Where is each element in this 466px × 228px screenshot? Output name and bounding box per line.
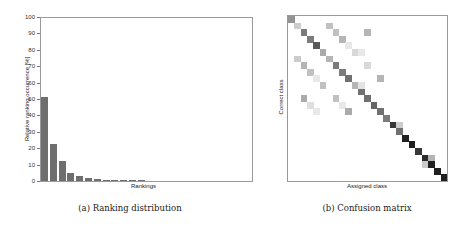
matrix-cell (313, 108, 320, 115)
bar (59, 161, 66, 182)
bar (111, 180, 118, 181)
y-tick (37, 17, 40, 18)
x-axis-label-matrix: Assigned class (347, 183, 387, 189)
matrix-cell (358, 49, 365, 56)
y-tick-label: 90 (21, 30, 35, 36)
y-tick (37, 99, 40, 100)
bar (76, 176, 83, 181)
y-tick (37, 148, 40, 149)
bar (85, 178, 92, 181)
bar (129, 180, 136, 181)
matrix-cell (364, 62, 371, 69)
y-axis-label-matrix: Correct class (278, 72, 284, 122)
y-tick (37, 83, 40, 84)
y-tick (37, 115, 40, 116)
bar (50, 144, 57, 181)
bar (94, 179, 101, 181)
bar (103, 180, 110, 181)
bar (67, 173, 74, 181)
y-tick-label: 0 (21, 178, 35, 184)
x-axis-label: Rankings (131, 183, 156, 189)
y-tick (37, 165, 40, 166)
bar (120, 180, 127, 181)
y-tick (37, 66, 40, 67)
matrix-cell (377, 75, 384, 82)
y-tick-label: 10 (21, 162, 35, 168)
matrix-cell (320, 82, 327, 89)
matrix-cell (441, 174, 448, 181)
y-tick (37, 33, 40, 34)
y-tick (37, 181, 40, 182)
matrix-cell (345, 108, 352, 115)
matrix-cell (364, 29, 371, 36)
ranking-plot-area (40, 17, 253, 182)
caption-confusion: (b) Confusion matrix (297, 203, 437, 213)
caption-ranking: (a) Ranking distribution (60, 203, 200, 213)
y-tick-label: 100 (21, 14, 35, 20)
bar (138, 180, 145, 181)
y-axis-label: Relative ranking occurrence [%] (24, 44, 30, 154)
y-tick (37, 132, 40, 133)
bar (41, 97, 48, 181)
y-tick (37, 50, 40, 51)
